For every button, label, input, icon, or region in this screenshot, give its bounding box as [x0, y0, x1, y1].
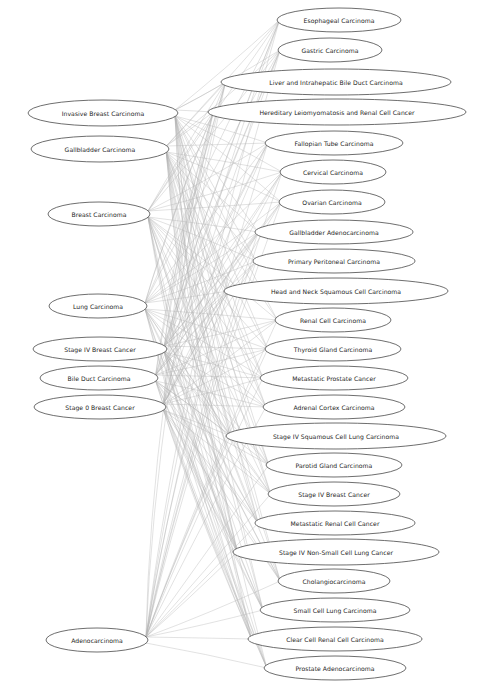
node-label: Metastatic Renal Cell Cancer — [291, 520, 380, 527]
node-label: Esophageal Carcinoma — [304, 17, 375, 25]
node-label: Stage IV Breast Cancer — [64, 346, 136, 354]
node-label: Gastric Carcinoma — [301, 47, 358, 54]
node-clear-cell-renal-cell-carcinoma[interactable]: Clear Cell Renal Cell Carcinoma — [248, 627, 422, 651]
graph-edge — [145, 309, 267, 668]
node-esophageal-carcinoma[interactable]: Esophageal Carcinoma — [277, 8, 401, 32]
node-invasive-breast-carcinoma[interactable]: Invasive Breast Carcinoma — [28, 100, 178, 126]
node-label: Stage IV Squamous Cell Lung Carcinoma — [273, 433, 399, 441]
node-stage-iv-squamous-cell-lung-carcinoma[interactable]: Stage IV Squamous Cell Lung Carcinoma — [226, 423, 446, 449]
node-parotid-gland-carcinoma[interactable]: Parotid Gland Carcinoma — [266, 453, 402, 477]
node-small-cell-lung-carcinoma[interactable]: Small Cell Lung Carcinoma — [260, 598, 410, 622]
node-label: Lung Carcinoma — [73, 303, 123, 311]
node-label: Head and Neck Squamous Cell Carcinoma — [271, 288, 401, 296]
node-breast-carcinoma[interactable]: Breast Carcinoma — [48, 202, 150, 226]
node-label: Stage 0 Breast Cancer — [65, 404, 135, 412]
node-liver-and-intrahepatic-bile-duct-carcinoma[interactable]: Liver and Intrahepatic Bile Duct Carcino… — [221, 69, 451, 95]
node-thyroid-gland-carcinoma[interactable]: Thyroid Gland Carcinoma — [265, 337, 401, 361]
graph-edge — [146, 643, 267, 668]
node-label: Stage IV Non-Small Cell Lung Cancer — [279, 549, 393, 557]
graph-edge — [146, 637, 252, 639]
node-metastatic-prostate-cancer[interactable]: Metastatic Prostate Cancer — [260, 366, 408, 390]
node-prostate-adenocarcinoma[interactable]: Prostate Adenocarcinoma — [264, 656, 406, 680]
node-adenocarcinoma[interactable]: Adenocarcinoma — [46, 628, 148, 652]
node-gastric-carcinoma[interactable]: Gastric Carcinoma — [278, 38, 382, 62]
node-ovarian-carcinoma[interactable]: Ovarian Carcinoma — [279, 190, 385, 214]
node-label: Hereditary Leiomyomatosis and Renal Cell… — [259, 109, 415, 117]
node-label: Gallbladder Carcinoma — [65, 146, 136, 153]
node-bile-duct-carcinoma[interactable]: Bile Duct Carcinoma — [40, 366, 158, 390]
node-label: Clear Cell Renal Cell Carcinoma — [286, 636, 384, 643]
graph-edge — [148, 172, 282, 211]
node-label: Metastatic Prostate Cancer — [292, 375, 376, 382]
node-label: Breast Carcinoma — [71, 211, 126, 218]
node-fallopian-tube-carcinoma[interactable]: Fallopian Tube Carcinoma — [265, 131, 403, 155]
node-hereditary-leiomyomatosis-and-renal-cell-cancer[interactable]: Hereditary Leiomyomatosis and Renal Cell… — [208, 99, 466, 125]
bipartite-graph-canvas: Invasive Breast CarcinomaGallbladder Car… — [0, 0, 480, 697]
node-label: Ovarian Carcinoma — [302, 199, 362, 206]
node-label: Gallbladder Adenocarcinoma — [289, 229, 379, 236]
node-gallbladder-carcinoma[interactable]: Gallbladder Carcinoma — [31, 136, 169, 162]
node-cervical-carcinoma[interactable]: Cervical Carcinoma — [280, 160, 386, 184]
node-label: Renal Cell Carcinoma — [300, 317, 366, 324]
node-label: Cholangiocarcinoma — [302, 578, 365, 586]
node-label: Primary Peritoneal Carcinoma — [288, 258, 380, 266]
node-stage-iv-non-small-cell-lung-cancer[interactable]: Stage IV Non-Small Cell Lung Cancer — [233, 539, 439, 565]
node-lung-carcinoma[interactable]: Lung Carcinoma — [49, 294, 147, 318]
node-label: Adenocarcinoma — [71, 637, 123, 644]
node-label: Cervical Carcinoma — [303, 169, 363, 176]
graph-edge — [145, 143, 268, 303]
node-label: Prostate Adenocarcinoma — [295, 665, 374, 672]
node-primary-peritoneal-carcinoma[interactable]: Primary Peritoneal Carcinoma — [253, 249, 415, 273]
node-cholangiocarcinoma[interactable]: Cholangiocarcinoma — [278, 569, 390, 593]
node-label: Adrenal Cortex Carcinoma — [293, 404, 374, 411]
node-label: Liver and Intrahepatic Bile Duct Carcino… — [269, 79, 403, 87]
node-label: Thyroid Gland Carcinoma — [293, 346, 373, 354]
graph-svg: Invasive Breast CarcinomaGallbladder Car… — [0, 0, 480, 697]
node-label: Bile Duct Carcinoma — [67, 375, 130, 382]
node-renal-cell-carcinoma[interactable]: Renal Cell Carcinoma — [275, 308, 391, 332]
node-label: Invasive Breast Carcinoma — [62, 110, 145, 117]
node-stage-0-breast-cancer[interactable]: Stage 0 Breast Cancer — [34, 395, 166, 419]
node-label: Parotid Gland Carcinoma — [296, 462, 373, 469]
node-adrenal-cortex-carcinoma[interactable]: Adrenal Cortex Carcinoma — [263, 395, 405, 419]
node-stage-iv-breast-cancer[interactable]: Stage IV Breast Cancer — [268, 482, 400, 506]
node-gallbladder-adenocarcinoma[interactable]: Gallbladder Adenocarcinoma — [255, 220, 413, 244]
graph-edge — [146, 523, 258, 637]
node-head-and-neck-squamous-cell-carcinoma[interactable]: Head and Neck Squamous Cell Carcinoma — [224, 278, 448, 304]
node-stage-iv-breast-cancer[interactable]: Stage IV Breast Cancer — [33, 337, 167, 361]
node-label: Small Cell Lung Carcinoma — [294, 607, 377, 615]
node-label: Stage IV Breast Cancer — [298, 491, 370, 499]
node-label: Fallopian Tube Carcinoma — [295, 140, 374, 148]
node-metastatic-renal-cell-cancer[interactable]: Metastatic Renal Cell Cancer — [255, 511, 415, 535]
